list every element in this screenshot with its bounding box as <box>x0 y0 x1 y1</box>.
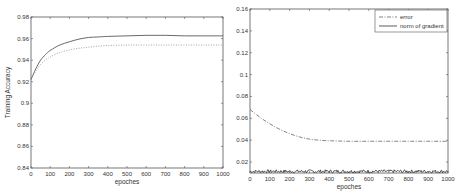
y-tick-label: 0.12 <box>236 50 248 56</box>
x-tick-label: 700 <box>160 171 171 177</box>
x-tick-label: 100 <box>265 176 276 182</box>
series-line-error <box>250 110 448 142</box>
y-axis-label: Training Accuracy <box>4 66 12 118</box>
axes-frame <box>31 17 223 168</box>
x-tick-label: 1000 <box>216 171 230 177</box>
series-line-dotted <box>31 45 223 80</box>
x-tick-label: 400 <box>324 176 335 182</box>
x-tick-label: 600 <box>364 176 375 182</box>
y-tick-label: 0.98 <box>17 14 29 20</box>
y-tick-label: 0.02 <box>236 159 248 165</box>
y-tick-label: 0.1 <box>240 72 249 78</box>
x-axis-label: epoches <box>337 183 362 191</box>
x-tick-label: 400 <box>103 171 114 177</box>
x-tick-label: 900 <box>423 176 434 182</box>
x-tick-label: 500 <box>122 171 133 177</box>
y-tick-label: 0.08 <box>236 93 248 99</box>
x-tick-label: 200 <box>64 171 75 177</box>
y-tick-label: 0.92 <box>17 79 29 85</box>
error-gradient-plot: 010020030040050060070080090010000.020.04… <box>236 6 455 191</box>
series-line-solid <box>31 35 223 79</box>
x-tick-label: 500 <box>344 176 355 182</box>
figure: 010020030040050060070080090010000.840.86… <box>0 0 460 191</box>
x-tick-label: 300 <box>84 171 95 177</box>
y-tick-label: 0.9 <box>21 100 30 106</box>
axes-frame <box>250 9 448 173</box>
y-tick-label: 0.06 <box>236 115 248 121</box>
x-tick-label: 0 <box>248 176 252 182</box>
x-tick-label: 900 <box>199 171 210 177</box>
legend: errornorm of gradient <box>375 10 447 32</box>
x-tick-label: 0 <box>29 171 33 177</box>
x-tick-label: 800 <box>180 171 191 177</box>
y-tick-label: 0.88 <box>17 122 29 128</box>
x-tick-label: 200 <box>285 176 296 182</box>
y-tick-label: 0.14 <box>236 28 248 34</box>
x-axis-label: epoches <box>115 178 140 186</box>
x-tick-label: 1000 <box>441 176 455 182</box>
x-tick-label: 100 <box>45 171 56 177</box>
x-tick-label: 300 <box>304 176 315 182</box>
y-tick-label: 0.16 <box>236 6 248 12</box>
y-tick-label: 0.04 <box>236 137 248 143</box>
x-tick-label: 800 <box>403 176 414 182</box>
legend-label: error <box>400 14 413 20</box>
y-tick-label: 0.94 <box>17 57 29 63</box>
x-tick-label: 600 <box>141 171 152 177</box>
accuracy-plot: 010020030040050060070080090010000.840.86… <box>4 14 230 186</box>
x-tick-label: 700 <box>384 176 395 182</box>
y-tick-label: 0.84 <box>17 165 29 171</box>
legend-label: norm of gradient <box>400 23 444 29</box>
y-tick-label: 0.96 <box>17 36 29 42</box>
y-tick-label: 0.86 <box>17 143 29 149</box>
